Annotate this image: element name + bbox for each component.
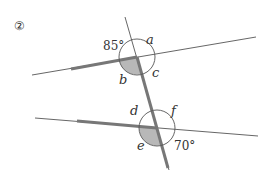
upper-line [32, 37, 256, 75]
geometry-diagram: ② 85° a b c d e f 70° [0, 0, 264, 172]
label-a: a [146, 32, 154, 47]
label-c: c [152, 65, 160, 80]
lower-thick-segment [77, 121, 157, 128]
label-b: b [119, 72, 127, 87]
problem-number: ② [14, 19, 25, 33]
label-f: f [170, 103, 178, 118]
angle-85-label: 85° [103, 39, 124, 53]
label-e: e [137, 138, 145, 153]
angle-70-label: 70° [174, 139, 195, 153]
label-d: d [130, 103, 138, 118]
